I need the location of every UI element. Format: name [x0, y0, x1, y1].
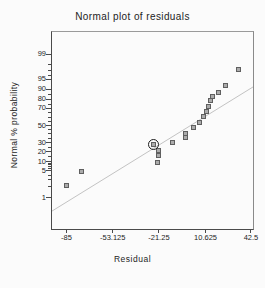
data-point[interactable]: [216, 90, 221, 95]
x-axis-tick-label: 10.625: [194, 233, 217, 242]
x-axis-tick-label: -85: [61, 233, 72, 242]
data-point[interactable]: [156, 148, 161, 153]
y-axis-tick-label: 70: [0, 103, 46, 113]
y-axis-minor-tick: [48, 138, 51, 139]
y-axis-minor-tick: [48, 175, 51, 176]
y-axis-major-tick: [46, 89, 51, 90]
y-axis-tick-label: 90: [0, 84, 46, 94]
y-axis-minor-tick: [48, 129, 51, 130]
y-axis-minor-tick: [48, 156, 51, 157]
y-axis-minor-tick: [48, 168, 51, 169]
data-point[interactable]: [183, 135, 188, 140]
y-axis-minor-tick: [48, 133, 51, 134]
y-axis-minor-tick: [48, 112, 51, 113]
y-axis-minor-tick: [48, 121, 51, 122]
plot-area: [51, 31, 254, 230]
y-axis-minor-tick: [48, 117, 51, 118]
y-axis-major-tick: [46, 54, 51, 55]
fit-line: [52, 32, 253, 229]
data-point[interactable]: [183, 131, 188, 136]
y-axis-minor-tick: [48, 70, 51, 71]
data-point[interactable]: [206, 104, 211, 109]
y-axis-tick-label: 95: [0, 74, 46, 84]
y-axis-major-tick: [46, 125, 51, 126]
data-point[interactable]: [170, 140, 175, 145]
x-axis-tick-label: 42.5: [244, 233, 259, 242]
y-axis-minor-tick: [48, 64, 51, 65]
data-point[interactable]: [155, 160, 160, 165]
y-axis-tick-label: 50: [0, 121, 46, 131]
data-point[interactable]: [151, 142, 156, 147]
y-axis-major-tick: [46, 197, 51, 198]
y-axis-tick-label: 99: [0, 49, 46, 59]
y-axis-tick-label: 1: [0, 193, 46, 203]
data-point[interactable]: [204, 109, 209, 114]
chart-title: Normal plot of residuals: [0, 11, 265, 22]
y-axis-major-tick: [46, 79, 51, 80]
y-axis-minor-tick: [48, 179, 51, 180]
data-point[interactable]: [236, 67, 241, 72]
y-axis-minor-tick: [48, 104, 51, 105]
y-axis-tick-label: 5: [0, 166, 46, 176]
data-point[interactable]: [197, 120, 202, 125]
x-axis-tick-label: -21.25: [148, 233, 169, 242]
x-axis-tick-label: -53.125: [100, 233, 125, 242]
data-point[interactable]: [191, 125, 196, 130]
y-axis-minor-tick: [48, 186, 51, 187]
y-axis-minor-tick: [48, 75, 51, 76]
x-axis-label: Residual: [0, 254, 265, 264]
y-axis-major-tick: [46, 142, 51, 143]
y-axis-tick-label: 20: [0, 147, 46, 157]
y-axis-minor-tick: [48, 166, 51, 167]
y-axis-major-tick: [46, 151, 51, 152]
y-axis-major-tick: [46, 170, 51, 171]
y-axis-minor-tick: [48, 94, 51, 95]
data-point[interactable]: [79, 169, 84, 174]
y-axis-minor-tick: [48, 147, 51, 148]
data-point[interactable]: [156, 153, 161, 158]
data-point[interactable]: [201, 114, 206, 119]
y-axis-major-tick: [46, 99, 51, 100]
data-point[interactable]: [64, 183, 69, 188]
data-point[interactable]: [223, 83, 228, 88]
data-point[interactable]: [210, 94, 215, 99]
y-axis-major-tick: [46, 108, 51, 109]
